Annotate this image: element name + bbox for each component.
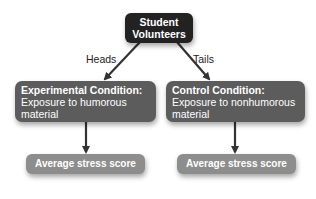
- condition-body-line2: material: [172, 108, 305, 120]
- heads-edge-label: Heads: [86, 53, 116, 65]
- control-outcome-node: Average stress score: [177, 154, 296, 174]
- experimental-outcome-node: Average stress score: [26, 154, 145, 174]
- student-volunteers-node: Student Volunteers: [125, 13, 193, 43]
- condition-body-line1: Exposure to humorous: [21, 96, 156, 108]
- root-label-line2: Volunteers: [125, 28, 193, 40]
- tails-edge-label: Tails: [193, 53, 214, 65]
- condition-body-line2: material: [21, 108, 156, 120]
- experimental-condition-node: Experimental Condition: Exposure to humo…: [15, 81, 156, 122]
- root-label-line1: Student: [125, 16, 193, 28]
- control-condition-node: Control Condition: Exposure to nonhumoro…: [166, 81, 305, 122]
- condition-title: Control Condition:: [172, 84, 305, 96]
- condition-body-line1: Exposure to nonhumorous: [172, 96, 305, 108]
- condition-title: Experimental Condition:: [21, 84, 156, 96]
